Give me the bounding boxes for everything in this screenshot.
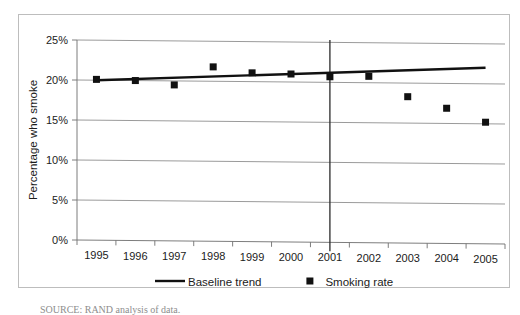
figure-frame xyxy=(19,15,510,288)
data-point-1997 xyxy=(171,81,178,88)
data-point-2002 xyxy=(365,73,372,80)
chart-figure: 0%5%10%15%20%25%Percentage who smoke1995… xyxy=(0,0,520,315)
x-tick-label-1996: 1996 xyxy=(123,250,147,262)
y-tick-label-5%: 5% xyxy=(52,194,68,206)
x-tick-label-2001: 2001 xyxy=(318,251,342,263)
gridline-0% xyxy=(77,240,505,244)
source-note: SOURCE: RAND analysis of data. xyxy=(40,304,180,315)
legend-item-smoking-rate: Smoking rate xyxy=(306,276,393,288)
gridline-25% xyxy=(77,40,505,44)
data-point-2001 xyxy=(326,73,333,80)
y-tick-label-0%: 0% xyxy=(52,234,68,246)
gridline-5% xyxy=(77,200,505,204)
gridline-10% xyxy=(77,160,505,164)
x-tick-label-2004: 2004 xyxy=(434,252,458,264)
data-point-2005 xyxy=(482,119,489,126)
data-point-1996 xyxy=(132,77,139,84)
y-tick-label-10%: 10% xyxy=(46,154,68,166)
y-tick-label-15%: 15% xyxy=(46,114,68,126)
y-axis-title: Percentage who smoke xyxy=(27,80,39,200)
smoking-rate-chart: 0%5%10%15%20%25%Percentage who smoke1995… xyxy=(0,0,520,315)
data-point-1995 xyxy=(93,76,100,83)
y-tick-label-20%: 20% xyxy=(46,74,68,86)
data-point-2004 xyxy=(443,105,450,112)
data-point-2003 xyxy=(404,93,411,100)
legend-label-1: Smoking rate xyxy=(325,276,393,288)
y-tick-label-25%: 25% xyxy=(46,34,68,46)
data-point-1999 xyxy=(249,69,256,76)
gridline-20% xyxy=(77,80,505,84)
gridline-15% xyxy=(77,120,505,124)
x-tick-label-1997: 1997 xyxy=(162,250,186,262)
x-tick-label-2005: 2005 xyxy=(473,253,497,265)
x-tick-label-1995: 1995 xyxy=(84,249,108,261)
legend-item-baseline-trend: Baseline trend xyxy=(155,276,262,288)
x-tick-label-2002: 2002 xyxy=(357,252,381,264)
x-tick-label-2003: 2003 xyxy=(395,252,419,264)
x-tick-label-1999: 1999 xyxy=(240,251,264,263)
x-tick-label-2000: 2000 xyxy=(279,251,303,263)
legend-label-0: Baseline trend xyxy=(188,276,262,288)
data-point-2000 xyxy=(288,71,295,78)
data-point-1998 xyxy=(210,63,217,70)
x-tick-label-1998: 1998 xyxy=(201,250,225,262)
legend-square-swatch xyxy=(306,278,313,285)
